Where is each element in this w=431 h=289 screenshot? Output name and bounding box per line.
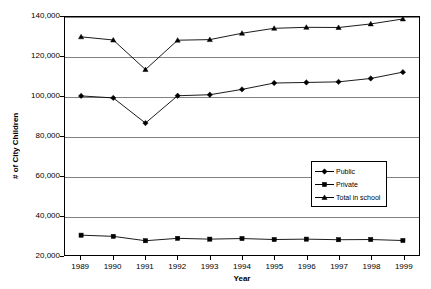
data-point-marker [79,34,84,39]
plot-area [64,16,420,256]
x-tick-mark [274,256,275,260]
y-tick-label: 120,000 [4,52,60,60]
y-tick-mark [60,256,64,257]
data-point-marker [79,233,83,237]
x-tick-mark [307,256,308,260]
data-point-marker [336,79,341,84]
chart-screenshot: # of City Children 140,000120,000100,000… [0,0,431,289]
x-tick-mark [339,256,340,260]
y-tick-label: 20,000 [4,252,60,260]
data-point-marker [322,195,327,200]
line-chart: # of City Children 140,000120,000100,000… [0,0,431,289]
series-line [81,72,403,123]
data-point-marker [78,93,83,98]
data-point-marker [271,80,276,85]
y-tick-label: 80,000 [4,132,60,140]
data-point-marker [176,236,180,240]
legend-item-private[interactable]: Private [315,178,383,191]
data-point-marker [401,238,405,242]
data-point-marker [369,237,373,241]
legend-label: Total in school [336,193,380,202]
data-point-marker [368,76,373,81]
x-tick-mark [404,256,405,260]
x-tick-mark [242,256,243,260]
x-tick-mark [210,256,211,260]
legend-marker-diamond-icon [315,167,334,176]
data-point-marker [111,234,115,238]
data-point-marker [400,16,405,21]
series-total-in-school [79,16,406,71]
y-tick-label: 40,000 [4,212,60,220]
y-tick-label: 60,000 [4,172,60,180]
legend-label: Private [336,180,358,189]
y-tick-label: 140,000 [4,12,60,20]
x-tick-mark [80,256,81,260]
legend-item-public[interactable]: Public [315,165,383,178]
data-point-marker [240,236,244,240]
x-tick-mark [177,256,178,260]
data-point-marker [400,69,405,74]
y-tick-label: 100,000 [4,92,60,100]
data-point-marker [322,169,327,174]
legend-label: Public [336,167,355,176]
y-axis-labels: 140,000120,000100,00080,00060,00040,0002… [0,0,60,289]
x-tick-mark [113,256,114,260]
data-point-marker [239,87,244,92]
data-point-marker [304,237,308,241]
series-public [78,69,405,125]
data-point-marker [336,238,340,242]
data-point-marker [207,92,212,97]
legend-item-total-in-school[interactable]: Total in school [315,191,383,204]
series-layer [65,17,419,255]
legend-marker-square-icon [315,180,334,189]
x-axis-title: Year [64,274,420,283]
x-tick-label: 1999 [384,262,424,271]
x-tick-mark [371,256,372,260]
legend-marker-triangle-icon [315,193,334,202]
series-line [81,19,403,70]
x-tick-mark [145,256,146,260]
data-point-marker [304,80,309,85]
series-private [79,233,405,243]
data-point-marker [208,237,212,241]
chart-legend: PublicPrivateTotal in school [311,161,387,207]
data-point-marker [272,237,276,241]
data-point-marker [143,239,147,243]
data-point-marker [322,182,326,186]
